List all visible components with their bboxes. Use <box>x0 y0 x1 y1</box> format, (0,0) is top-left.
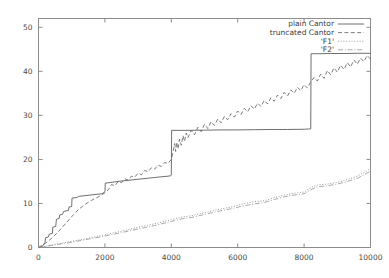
x-tick-label: 6000 <box>228 253 247 262</box>
chart-container: 010203040500200040006000800010000plain C… <box>0 0 389 278</box>
series-line-plain-cantor <box>39 53 371 247</box>
y-tick-label: 50 <box>23 23 33 32</box>
cantor-function-plot: 010203040500200040006000800010000plain C… <box>0 0 389 278</box>
x-tick-label: 4000 <box>162 253 181 262</box>
x-tick-label: 10000 <box>359 253 383 262</box>
y-tick-label: 30 <box>23 111 33 120</box>
y-tick-label: 10 <box>23 199 33 208</box>
legend-label: 'F2' <box>321 45 334 54</box>
y-tick-label: 0 <box>28 243 33 252</box>
y-tick-label: 40 <box>23 67 33 76</box>
x-tick-label: 0 <box>36 253 41 262</box>
x-tick-label: 2000 <box>95 253 114 262</box>
series-line-f2 <box>39 171 371 247</box>
y-tick-label: 20 <box>23 155 33 164</box>
series-line-truncated-cantor <box>39 55 371 247</box>
series-line-f1 <box>39 169 371 248</box>
x-tick-label: 8000 <box>295 253 314 262</box>
